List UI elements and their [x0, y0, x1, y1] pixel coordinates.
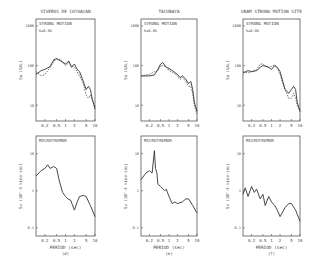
panel-label: STRONG MOTION [246, 21, 279, 26]
x-tick-label: 0.2 [146, 123, 154, 128]
x-tick-label: 1 [64, 238, 67, 243]
x-tick-label: 0.5 [53, 238, 61, 243]
panel-label: STRONG MOTION [144, 21, 177, 26]
y-axis-label: Sa (GAL) [18, 60, 23, 79]
x-tick-label: 0.2 [248, 238, 256, 243]
x-tick-label: 0.5 [259, 123, 267, 128]
y-tick-label: 100 [235, 64, 242, 68]
x-tick-label: 0.2 [41, 123, 49, 128]
y-tick-label: 1 [32, 189, 34, 193]
x-tick-label: 10 [298, 123, 303, 128]
damping-label: h=0.05 [144, 29, 157, 33]
y-tick-label: 100 [133, 64, 140, 68]
y-axis-label: Sv (10^-4 kine·sec) [18, 163, 23, 209]
solid-curve [141, 151, 197, 213]
chart-panel-2 [141, 19, 197, 121]
solid-curve [36, 165, 95, 217]
y-tick-label: 1 [239, 189, 241, 193]
x-tick-label: 2 [176, 238, 179, 243]
x-tick-label: 10 [195, 123, 200, 128]
x-tick-label: 0.5 [259, 238, 267, 243]
x-tick-label: 5 [85, 123, 88, 128]
x-tick-label: 10 [93, 123, 98, 128]
y-axis-label: Sv (10^-4 kine·sec) [225, 163, 230, 209]
chart-panel-4 [36, 136, 95, 236]
x-tick-label: 0.5 [157, 123, 165, 128]
y-tick-label: 10 [135, 152, 139, 156]
x-tick-label: 2 [73, 238, 76, 243]
x-tick-label: 5 [290, 238, 293, 243]
dashed-curve [141, 66, 197, 114]
x-axis-label: PERIOD (sec) [153, 245, 185, 250]
x-axis-label: PERIOD (sec) [256, 245, 288, 250]
y-axis-label: Sa (GAL) [123, 60, 128, 79]
x-tick-label: 0.5 [157, 238, 165, 243]
damping-label: h=0.05 [246, 29, 259, 33]
solid-curve [141, 63, 197, 112]
y-tick-label: 100 [28, 64, 35, 68]
y-tick-label: 0.1 [28, 226, 35, 230]
x-tick-label: 5 [187, 123, 190, 128]
y-tick-label: 1000 [232, 24, 241, 28]
y-tick-label: 0.1 [235, 226, 242, 230]
column-title: TACUBAYA [158, 9, 180, 14]
y-tick-label: 10 [135, 104, 139, 108]
y-tick-label: 1 [137, 189, 139, 193]
panel-label: STRONG MOTION [39, 21, 72, 26]
panel-label: MICROTREMOR [39, 138, 67, 143]
chart-panel-1 [36, 19, 95, 121]
subfigure-label: (d) [62, 251, 69, 256]
column-title: VIVEROS DE COYOACAN [40, 9, 91, 14]
plot-frame [141, 136, 197, 236]
dashed-curve [243, 64, 300, 111]
x-tick-label: 2 [279, 238, 282, 243]
solid-curve [243, 187, 300, 222]
x-tick-label: 10 [195, 238, 200, 243]
damping-label: h=0.05 [39, 29, 52, 33]
x-tick-label: 0.5 [53, 123, 61, 128]
dashed-curve [36, 59, 95, 107]
x-tick-label: 5 [85, 238, 88, 243]
x-tick-label: 1 [168, 123, 171, 128]
panel-label: MICROTREMOR [246, 138, 274, 143]
plot-frame [36, 19, 95, 121]
x-axis-label: PERIOD (sec) [50, 245, 82, 250]
column-title: UNAM STRONG MOTION SITE [241, 9, 302, 14]
panel-label: MICROTREMOR [144, 138, 172, 143]
chart-panel-3 [243, 19, 300, 121]
x-tick-label: 1 [168, 238, 171, 243]
y-tick-label: 10 [237, 104, 241, 108]
y-tick-label: 0.1 [133, 226, 140, 230]
y-axis-label: Sa (GAL) [225, 60, 230, 79]
solid-curve [36, 59, 95, 110]
chart-panel-6 [243, 136, 300, 236]
y-tick-label: 10 [30, 152, 34, 156]
x-tick-label: 0.2 [41, 238, 49, 243]
x-tick-label: 0.2 [146, 238, 154, 243]
x-tick-label: 5 [290, 123, 293, 128]
x-tick-label: 1 [270, 123, 273, 128]
y-tick-label: 10 [30, 104, 34, 108]
x-tick-label: 5 [187, 238, 190, 243]
subfigure-label: (f) [268, 251, 275, 256]
x-tick-label: 1 [64, 123, 67, 128]
y-axis-label: Sv (10^-4 kine·sec) [123, 163, 128, 209]
x-tick-label: 10 [298, 238, 303, 243]
x-tick-label: 2 [279, 123, 282, 128]
x-tick-label: 10 [93, 238, 98, 243]
y-tick-label: 1000 [25, 24, 34, 28]
solid-curve [243, 66, 300, 112]
x-tick-label: 1 [270, 238, 273, 243]
x-tick-label: 0.2 [248, 123, 256, 128]
chart-panel-5 [141, 136, 197, 236]
plot-frame [243, 19, 300, 121]
x-tick-label: 2 [73, 123, 76, 128]
figure-canvas: 0.20.512510100010010STRONG MOTIONh=0.05S… [0, 0, 318, 265]
y-tick-label: 10 [237, 152, 241, 156]
subfigure-label: (e) [165, 251, 172, 256]
x-tick-label: 2 [176, 123, 179, 128]
y-tick-label: 1000 [130, 24, 139, 28]
plot-frame [36, 136, 95, 236]
